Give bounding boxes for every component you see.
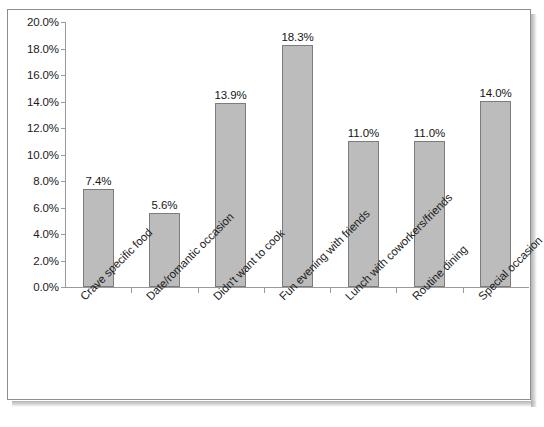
card-drop-shadow-right — [531, 14, 537, 407]
y-tick-label: 14.0% — [27, 96, 59, 108]
x-tick-mark-2 — [198, 288, 199, 293]
y-tick-mark — [61, 261, 65, 262]
y-axis-line — [65, 22, 66, 288]
x-tick-mark-1 — [131, 288, 132, 293]
bar-value-label: 14.0% — [479, 87, 511, 99]
y-tick-label: 16.0% — [27, 69, 59, 81]
x-tick-mark-4 — [330, 288, 331, 293]
bar: 14.0% — [480, 101, 511, 287]
y-tick-label: 6.0% — [33, 202, 59, 214]
x-tick-mark-5 — [396, 288, 397, 293]
y-tick-label: 20.0% — [27, 16, 59, 28]
y-tick-mark — [61, 75, 65, 76]
y-tick-mark — [61, 22, 65, 23]
chart-card: 0.0%2.0%4.0%6.0%8.0%10.0%12.0%14.0%16.0%… — [7, 9, 531, 400]
y-tick-label: 10.0% — [27, 149, 59, 161]
y-tick-label: 8.0% — [33, 175, 59, 187]
bar-value-label: 5.6% — [152, 199, 178, 211]
bar: 18.3% — [282, 45, 313, 287]
bar-value-label: 18.3% — [281, 31, 313, 43]
y-tick-label: 0.0% — [33, 281, 59, 293]
y-tick-mark — [61, 234, 65, 235]
card-drop-shadow-bottom — [12, 401, 536, 407]
bar-value-label: 7.4% — [86, 175, 112, 187]
bar-value-label: 11.0% — [414, 127, 445, 139]
y-tick-label: 2.0% — [33, 255, 59, 267]
x-tick-mark-6 — [463, 288, 464, 293]
y-tick-label: 4.0% — [33, 228, 59, 240]
y-tick-mark — [61, 181, 65, 182]
y-tick-mark — [61, 128, 65, 129]
y-tick-mark — [61, 155, 65, 156]
bar-value-label: 13.9% — [214, 89, 246, 101]
bar: 13.9% — [215, 103, 246, 287]
y-tick-label: 12.0% — [27, 122, 59, 134]
y-tick-mark — [61, 49, 65, 50]
x-tick-mark-3 — [264, 288, 265, 293]
y-tick-mark — [61, 287, 65, 288]
y-tick-mark — [61, 102, 65, 103]
y-tick-mark — [61, 208, 65, 209]
y-tick-label: 18.0% — [27, 43, 59, 55]
bar-value-label: 11.0% — [348, 127, 379, 139]
